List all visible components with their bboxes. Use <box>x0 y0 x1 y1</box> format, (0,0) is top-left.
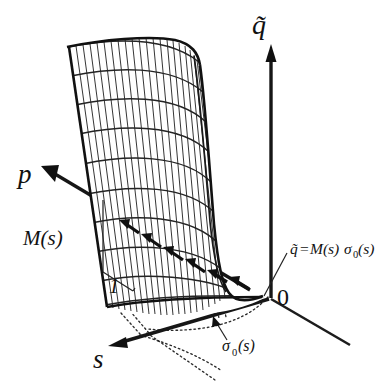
sigma-zero-arg: (s) <box>238 337 255 355</box>
equation-lhs: q̃ <box>290 240 299 257</box>
equation-arg: (s) <box>358 240 374 258</box>
axis-label-q: q̃ <box>252 9 267 40</box>
unit-run-label: 1 <box>109 275 119 297</box>
diagram-svg: q̃ p s 0 M(s) 1 q̃ = M(s) σ 0 (s) σ <box>0 0 381 386</box>
mesh-surface <box>67 38 263 316</box>
sigma-zero-sigma: σ <box>222 337 231 354</box>
sigma-zero-subscript: 0 <box>232 347 237 358</box>
equation-equals: = <box>300 240 309 257</box>
axis-p-arrowhead <box>41 165 59 182</box>
slope-label-ms: M(s) <box>22 226 63 250</box>
projection-dotted-spread <box>140 335 222 371</box>
projection-dotted-line-left <box>121 313 140 334</box>
figure-canvas: q̃ p s 0 M(s) 1 q̃ = M(s) σ 0 (s) σ <box>0 0 381 386</box>
axis-s-arrowhead <box>108 337 128 348</box>
sigma-zero-label: σ 0 (s) <box>222 337 255 358</box>
mesh-surface-fill <box>69 39 262 316</box>
equation-sigma: σ <box>344 240 353 257</box>
origin-label: 0 <box>277 284 289 310</box>
surface-equation-label: q̃ = M(s) σ 0 (s) <box>290 240 374 260</box>
axis-q-arrowhead <box>266 44 277 62</box>
equation-factor: M(s) <box>309 240 339 258</box>
axis-label-s: s <box>93 344 104 374</box>
axis-label-p: p <box>16 159 32 189</box>
